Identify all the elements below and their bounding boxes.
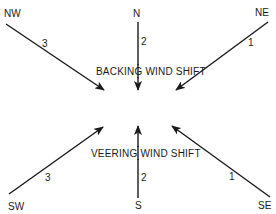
label-s: S bbox=[135, 200, 142, 211]
backing-caption: BACKING WIND SHIFT bbox=[96, 66, 206, 77]
label-nw: NW bbox=[4, 8, 21, 19]
arrow-ne-icon bbox=[176, 22, 268, 90]
order-n: 2 bbox=[141, 36, 147, 47]
veering-caption: VEERING WIND SHIFT bbox=[91, 148, 201, 159]
order-se: 1 bbox=[229, 171, 235, 182]
arrow-nw-icon bbox=[6, 24, 104, 90]
backing-group: NW 3 N 2 NE 1 BACKING WIND SHIFT bbox=[4, 7, 269, 90]
order-sw: 3 bbox=[45, 172, 51, 183]
label-se: SE bbox=[258, 200, 272, 211]
arrow-sw-icon bbox=[9, 127, 103, 194]
wind-shift-diagram: NW 3 N 2 NE 1 BACKING WIND SHIFT SW 3 S … bbox=[0, 0, 276, 214]
label-n: N bbox=[133, 8, 140, 19]
arrow-se-icon bbox=[172, 126, 270, 197]
order-nw: 3 bbox=[42, 38, 48, 49]
veering-group: SW 3 S 2 SE 1 VEERING WIND SHIFT bbox=[8, 126, 272, 212]
order-ne: 1 bbox=[248, 37, 254, 48]
order-s: 2 bbox=[141, 172, 147, 183]
label-sw: SW bbox=[8, 201, 25, 212]
label-ne: NE bbox=[255, 7, 269, 18]
